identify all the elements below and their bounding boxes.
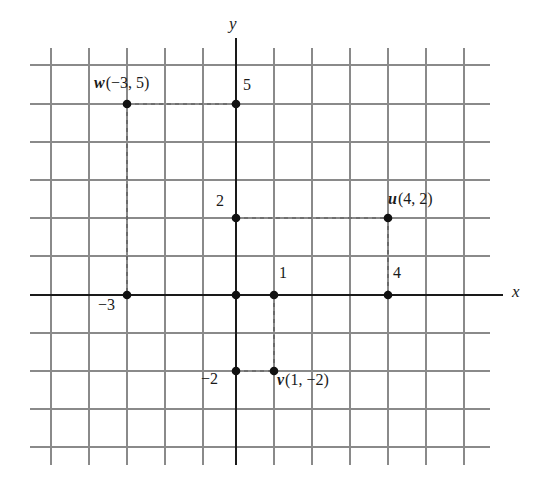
axes xyxy=(30,38,503,465)
dot-origin xyxy=(232,291,241,300)
dot-x-1 xyxy=(270,291,279,300)
grid-horizontal-lines xyxy=(30,65,490,447)
plot-dots xyxy=(123,100,393,376)
tick-label-x-minus-3: −3 xyxy=(98,296,115,314)
tick-label-y-2: 2 xyxy=(216,192,224,210)
x-axis-label: x xyxy=(512,282,520,302)
y-axis-label: y xyxy=(229,14,237,34)
coordinate-plane-figure: y x 5 2 −2 −3 1 4 w(−3, 5) u(4, 2) v(1, … xyxy=(0,0,559,481)
tick-label-x-1: 1 xyxy=(279,264,287,282)
vector-name-v: v xyxy=(277,371,285,388)
dot-y-minus-2 xyxy=(232,367,241,376)
point-label-w: w(−3, 5) xyxy=(94,74,149,92)
point-label-u: u(4, 2) xyxy=(388,190,433,208)
projection-guides xyxy=(127,104,388,371)
vector-coords-u: (4, 2) xyxy=(398,190,433,207)
tick-label-y-5: 5 xyxy=(243,76,251,94)
tick-label-x-4: 4 xyxy=(393,264,401,282)
dot-x-4 xyxy=(384,291,393,300)
vector-name-u: u xyxy=(388,190,398,207)
vector-coords-v: (1, −2) xyxy=(285,371,329,388)
plot-canvas xyxy=(0,0,559,481)
point-label-v: v(1, −2) xyxy=(277,371,329,389)
tick-label-y-minus-2: −2 xyxy=(201,370,218,388)
dot-y-2 xyxy=(232,214,241,223)
dot-x-minus-3 xyxy=(123,291,132,300)
vector-name-w: w xyxy=(94,74,106,91)
dot-point-w xyxy=(123,100,132,109)
dot-y-5 xyxy=(232,100,241,109)
dot-point-u xyxy=(384,214,393,223)
vector-coords-w: (−3, 5) xyxy=(106,74,150,91)
